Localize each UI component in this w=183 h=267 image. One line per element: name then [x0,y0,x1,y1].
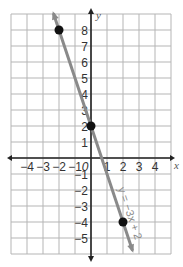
y-axis-label: y [95,9,101,21]
line-y-eq-neg3x-plus-2 [52,11,134,252]
svg-text:−4: −4 [20,160,34,174]
svg-text:−5: −5 [74,232,88,246]
svg-text:5: 5 [81,72,88,86]
coordinate-plane: −4−3−2−10123487654321−1−2−3−4−5 y = −3x … [0,0,183,267]
svg-text:1: 1 [81,136,88,150]
svg-text:2: 2 [120,160,127,174]
tick-labels: −4−3−2−10123487654321−1−2−3−4−5 [20,24,159,246]
svg-text:−3: −3 [74,200,88,214]
svg-text:8: 8 [81,24,88,38]
svg-text:4: 4 [152,160,159,174]
svg-text:−2: −2 [52,160,66,174]
x-axis-label: x [173,159,179,171]
svg-text:6: 6 [81,56,88,70]
svg-text:7: 7 [81,40,88,54]
svg-text:−1: −1 [74,168,88,182]
svg-text:−4: −4 [74,216,88,230]
svg-text:−3: −3 [36,160,50,174]
svg-text:−2: −2 [74,184,88,198]
svg-text:3: 3 [136,160,143,174]
